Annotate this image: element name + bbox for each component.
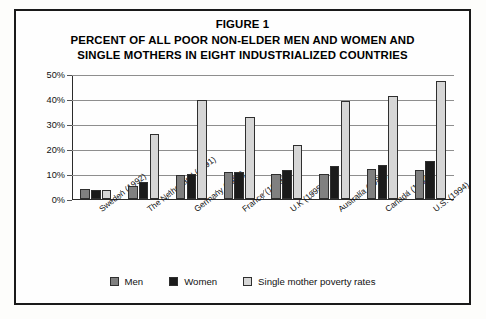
- figure-frame: FIGURE 1 PERCENT OF ALL POOR NON-ELDER M…: [14, 9, 471, 305]
- bar-group: [311, 74, 359, 199]
- bar-women: [282, 170, 292, 199]
- x-axis-group-separator: [359, 190, 360, 199]
- bar-women: [187, 174, 197, 199]
- figure-title-line-1: PERCENT OF ALL POOR NON-ELDER MEN AND WO…: [16, 33, 469, 49]
- bar-group: [263, 74, 311, 199]
- figure-title-line-2: SINGLE MOTHERS IN EIGHT INDUSTRIALIZED C…: [16, 48, 469, 64]
- bar-men: [128, 186, 138, 199]
- plot-canvas: 0%10%20%30%40%50%Sweden (1992)The Nether…: [72, 75, 454, 200]
- legend-label: Men: [125, 276, 144, 287]
- bar-group: [120, 74, 168, 199]
- legend-swatch-single: [243, 277, 252, 286]
- bar-single-mothers: [293, 145, 303, 199]
- x-axis-group-separator: [215, 190, 216, 199]
- legend-item-single: Single mother poverty rates: [243, 276, 375, 287]
- bar-group: [215, 74, 263, 199]
- x-axis-group-separator: [406, 190, 407, 199]
- bar-men: [224, 172, 234, 198]
- bar-men: [319, 174, 329, 199]
- legend-label: Women: [184, 276, 217, 287]
- chart-legend: MenWomenSingle mother poverty rates: [16, 276, 469, 287]
- bar-women: [425, 161, 435, 199]
- bar-men: [415, 170, 425, 199]
- bar-women: [139, 182, 149, 198]
- bar-men: [80, 189, 90, 199]
- figure-title-block: FIGURE 1 PERCENT OF ALL POOR NON-ELDER M…: [16, 17, 469, 64]
- bar-women: [330, 166, 340, 199]
- y-axis-tick: [67, 200, 72, 201]
- bar-single-mothers: [245, 117, 255, 198]
- chart-area: Percent poor 0%10%20%30%40%50%Sweden (19…: [16, 63, 469, 263]
- bar-group: [406, 74, 454, 199]
- bar-men: [271, 174, 281, 199]
- y-axis-tick-label: 20%: [47, 145, 65, 155]
- bar-group: [72, 74, 120, 199]
- legend-label: Single mother poverty rates: [258, 276, 375, 287]
- figure-number: FIGURE 1: [16, 17, 469, 33]
- y-axis-tick-label: 50%: [47, 70, 65, 80]
- y-axis-tick-label: 10%: [47, 170, 65, 180]
- y-axis-tick-label: 40%: [47, 95, 65, 105]
- legend-swatch-men: [110, 277, 119, 286]
- bar-group: [359, 74, 407, 199]
- bar-single-mothers: [436, 81, 446, 199]
- y-axis-tick-label: 0%: [52, 195, 65, 205]
- bar-group: [168, 74, 216, 199]
- legend-item-women: Women: [169, 276, 217, 287]
- bar-single-mothers: [388, 96, 398, 199]
- x-axis-group-separator: [263, 190, 264, 199]
- bar-women: [91, 190, 101, 199]
- bar-single-mothers: [197, 100, 207, 199]
- bar-single-mothers: [150, 134, 160, 199]
- bar-men: [176, 175, 186, 199]
- y-axis-tick-label: 30%: [47, 120, 65, 130]
- bar-single-mothers: [341, 101, 351, 199]
- x-axis-group-separator: [120, 190, 121, 199]
- x-axis-group-separator: [311, 190, 312, 199]
- legend-swatch-women: [169, 277, 178, 286]
- legend-item-men: Men: [110, 276, 144, 287]
- x-axis-group-separator: [168, 190, 169, 199]
- bar-men: [367, 169, 377, 199]
- bar-women: [378, 165, 388, 199]
- bar-women: [234, 172, 244, 198]
